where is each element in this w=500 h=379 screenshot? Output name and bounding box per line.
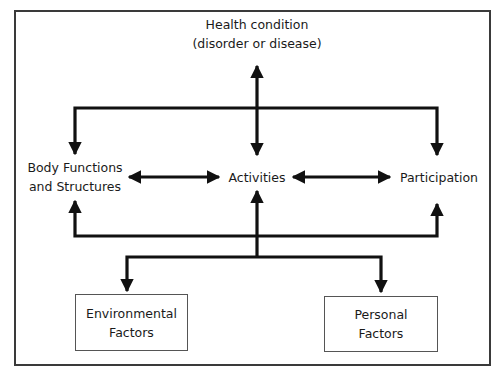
personal-line1: Personal bbox=[354, 305, 407, 324]
to-personal-arrow bbox=[257, 257, 381, 292]
activities-label: Activities bbox=[228, 170, 285, 185]
health-condition-title: Health condition bbox=[192, 15, 321, 34]
node-body-functions: Body Functions and Structures bbox=[27, 158, 122, 196]
body-functions-line1: Body Functions bbox=[27, 158, 122, 177]
node-health-condition: Health condition (disorder or disease) bbox=[192, 15, 321, 53]
health-to-body-arrow bbox=[75, 108, 257, 154]
to-environmental-arrow bbox=[127, 257, 257, 291]
context-to-participation-arrow bbox=[257, 204, 437, 236]
environmental-line2: Factors bbox=[86, 323, 177, 342]
context-to-body-arrow bbox=[75, 201, 257, 236]
body-functions-line2: and Structures bbox=[27, 177, 122, 196]
health-condition-subtitle: (disorder or disease) bbox=[192, 34, 321, 53]
participation-label: Participation bbox=[400, 170, 478, 185]
node-personal-factors: Personal Factors bbox=[324, 296, 438, 352]
environmental-line1: Environmental bbox=[86, 304, 177, 323]
node-environmental-factors: Environmental Factors bbox=[75, 294, 188, 351]
personal-line2: Factors bbox=[354, 324, 407, 343]
node-participation: Participation bbox=[400, 168, 478, 187]
health-to-participation-arrow bbox=[257, 108, 437, 155]
node-activities: Activities bbox=[228, 168, 285, 187]
